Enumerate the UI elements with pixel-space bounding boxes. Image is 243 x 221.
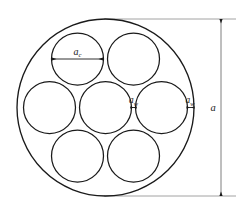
diagram-svg: ac aw aw a (0, 0, 243, 221)
label-web-outer-sub: w (190, 100, 195, 107)
hole-bottom-right (108, 130, 160, 182)
label-outer-diameter: a (210, 102, 215, 113)
dimension-labels: ac aw aw a (74, 46, 216, 113)
label-web-inner-sub: w (134, 100, 139, 107)
label-hole-diameter: ac (74, 46, 82, 58)
extension-lines (104, 19, 236, 196)
hole-left (24, 82, 76, 134)
hole-center (80, 82, 132, 134)
label-outer-diameter-base: a (210, 102, 215, 113)
hole-top-right (108, 33, 160, 85)
figure-canvas: ac aw aw a (0, 0, 243, 221)
hole-group (24, 33, 188, 182)
hole-bottom-left (52, 130, 104, 182)
label-hole-diameter-sub: c (79, 51, 82, 58)
hole-right (136, 82, 188, 134)
outer-circle (17, 19, 194, 196)
